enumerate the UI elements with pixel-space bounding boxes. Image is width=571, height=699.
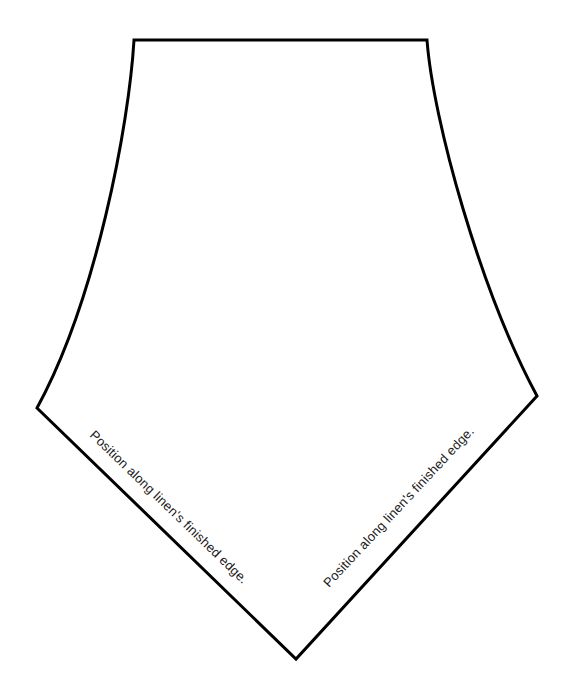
pentagon-pattern-outline [37,40,537,659]
pattern-diagram: Position along linen's finished edge. Po… [0,0,571,699]
